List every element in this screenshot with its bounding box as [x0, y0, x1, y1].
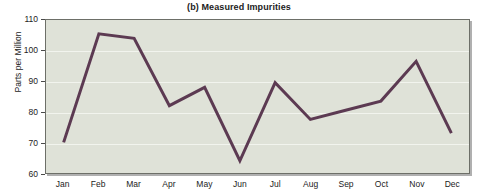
y-tick-label: 70: [16, 138, 38, 148]
y-tick-label: 100: [16, 45, 38, 55]
x-tick-label-mar: Mar: [114, 179, 154, 189]
y-tick-mark: [41, 174, 45, 175]
impurities-line-chart: (b) Measured Impurities Parts per Millio…: [0, 0, 478, 196]
chart-title: (b) Measured Impurities: [0, 2, 478, 12]
x-tick-label-dec: Dec: [432, 179, 472, 189]
x-tick-label-apr: Apr: [149, 179, 189, 189]
x-tick-label-jan: Jan: [43, 179, 83, 189]
data-line-svg: [46, 20, 469, 173]
plot-area: [45, 19, 470, 174]
series-line-measured-impurities: [64, 34, 452, 161]
y-tick-label: 110: [16, 14, 38, 24]
x-tick-label-aug: Aug: [291, 179, 331, 189]
x-tick-label-may: May: [184, 179, 224, 189]
y-tick-label: 90: [16, 76, 38, 86]
y-tick-label: 60: [16, 169, 38, 179]
x-tick-label-feb: Feb: [78, 179, 118, 189]
x-tick-label-jun: Jun: [220, 179, 260, 189]
x-tick-label-sep: Sep: [326, 179, 366, 189]
x-tick-label-jul: Jul: [255, 179, 295, 189]
x-tick-label-nov: Nov: [397, 179, 437, 189]
x-tick-label-oct: Oct: [361, 179, 401, 189]
y-tick-label: 80: [16, 107, 38, 117]
